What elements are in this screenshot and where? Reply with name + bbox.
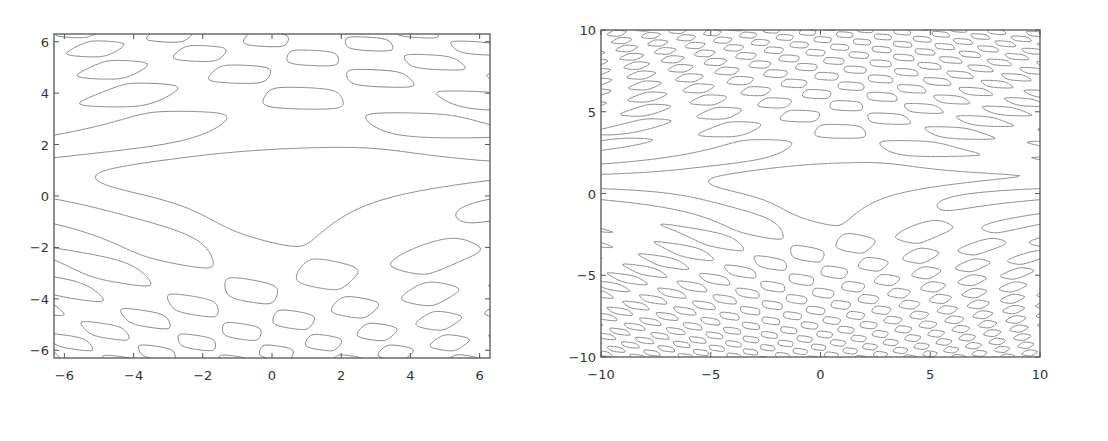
x-tick-label: 10 xyxy=(1032,367,1049,382)
y-tick-label: −10 xyxy=(569,350,596,365)
x-tick-label: 6 xyxy=(475,368,483,383)
y-tick-label: 6 xyxy=(41,35,49,50)
x-tick-label: 0 xyxy=(268,368,276,383)
y-tick-label: −5 xyxy=(577,268,596,283)
y-tick-label: 2 xyxy=(41,138,49,153)
x-tick-label: −6 xyxy=(55,368,74,383)
panel-a-default-curves: −6−4−20246−6−4−20246 xyxy=(0,0,550,441)
y-tick-label: 0 xyxy=(41,189,49,204)
y-tick-label: 4 xyxy=(41,86,49,101)
x-tick-label: −2 xyxy=(193,368,212,383)
y-tick-label: 10 xyxy=(579,23,596,38)
y-tick-label: 0 xyxy=(588,187,596,202)
y-tick-label: −6 xyxy=(30,343,49,358)
contour-curves xyxy=(54,34,490,358)
x-tick-label: 2 xyxy=(337,368,345,383)
contour-plot-a: −6−4−20246−6−4−20246 xyxy=(0,0,550,441)
x-tick-label: 5 xyxy=(926,367,934,382)
x-tick-label: 0 xyxy=(816,367,824,382)
x-tick-label: 4 xyxy=(406,368,414,383)
y-tick-label: −2 xyxy=(30,240,49,255)
y-tick-label: 5 xyxy=(588,105,596,120)
x-tick-label: −4 xyxy=(124,368,143,383)
x-tick-label: −10 xyxy=(587,367,614,382)
y-tick-label: −4 xyxy=(30,292,49,307)
contour-curves xyxy=(601,30,1040,357)
plot-frame xyxy=(54,34,490,358)
panel-b-larger-area: −10−50510−10−50510 xyxy=(550,0,1108,441)
x-tick-label: −5 xyxy=(701,367,720,382)
contour-plot-b: −10−50510−10−50510 xyxy=(550,0,1108,441)
